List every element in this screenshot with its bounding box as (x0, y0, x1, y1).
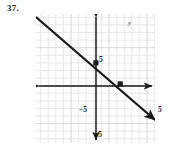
point-marker-second (118, 81, 123, 86)
tick-label-y-positive-5: 5 (99, 56, 103, 64)
graph-figure: 37. (0, 0, 172, 157)
coordinate-plane: y x 5 −5 −5 5 (36, 14, 155, 143)
tick-label-x-positive-5: 5 (158, 106, 162, 114)
y-axis-label: y (128, 20, 131, 27)
tick-label-x-negative-5: −5 (79, 106, 87, 114)
point-marker-y-intercept (93, 60, 98, 65)
tick-label-y-negative-5: −5 (94, 131, 102, 139)
plot-area (36, 14, 155, 143)
problem-number: 37. (7, 4, 19, 13)
